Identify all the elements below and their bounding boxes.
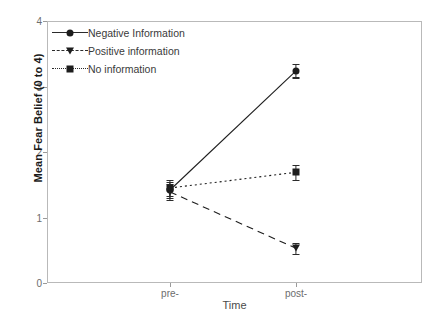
series-line bbox=[170, 192, 296, 248]
series-lines bbox=[0, 0, 434, 320]
series-line bbox=[170, 172, 296, 188]
chart-figure: 01234 pre-post- Mean Fear Belief (0 to 4… bbox=[0, 0, 434, 320]
series-line bbox=[170, 71, 296, 190]
